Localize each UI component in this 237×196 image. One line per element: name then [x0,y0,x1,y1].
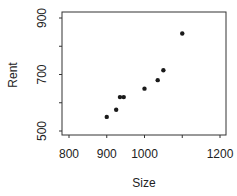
x-tick-label: 1200 [207,147,234,161]
y-tick-label: 500 [35,121,49,141]
scatter-plot: 80090010001200 500700900 Size Rent [0,0,237,196]
y-tick-label: 900 [35,8,49,28]
x-tick-label: 900 [97,147,117,161]
y-tick-label: 700 [35,64,49,84]
data-point [161,68,165,72]
data-points [105,31,185,119]
data-point [118,95,122,99]
data-point [156,78,160,82]
data-point [180,31,184,35]
data-point [122,95,126,99]
y-axis-label: Rent [6,62,20,88]
data-point [114,108,118,112]
x-tick-label: 800 [59,147,79,161]
y-axis: 500700900 [35,8,62,141]
scatter-chart: 80090010001200 500700900 Size Rent [0,0,237,196]
data-point [105,115,109,119]
x-axis: 80090010001200 [59,135,234,161]
x-axis-label: Size [132,176,156,190]
data-point [142,86,146,90]
plot-frame [62,12,226,135]
x-tick-label: 1000 [131,147,158,161]
